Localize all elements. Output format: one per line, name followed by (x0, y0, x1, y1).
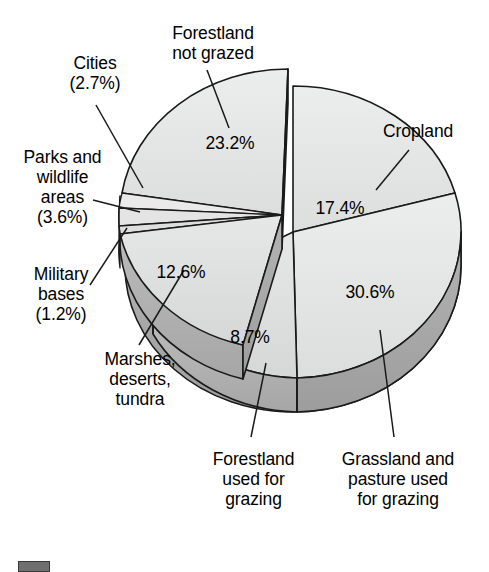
value-grassland-pasture: 30.6% (320, 282, 420, 303)
label-forestland-not-grazed: Forestland not grazed (143, 24, 283, 64)
label-cropland: Cropland (383, 122, 488, 142)
label-grassland-pasture-grazing: Grassland and pasture used for grazing (323, 450, 473, 510)
value-forestland-not-grazed: 23.2% (180, 133, 280, 154)
value-cropland: 17.4% (290, 198, 390, 219)
value-forestland-used-for-grazing: 8.7% (205, 327, 295, 348)
label-military-bases: Military bases (1.2%) (6, 265, 116, 325)
label-cities: Cities (2.7%) (40, 54, 150, 94)
value-marshes-deserts-tundra: 12.6% (131, 262, 231, 283)
label-forestland-used-for-grazing: Forestland used for grazing (196, 450, 311, 510)
legend-swatch (18, 561, 50, 572)
label-parks-wildlife: Parks and wildlife areas (3.6%) (0, 148, 125, 228)
label-marshes-deserts-tundra: Marshes, deserts, tundra (85, 350, 195, 410)
